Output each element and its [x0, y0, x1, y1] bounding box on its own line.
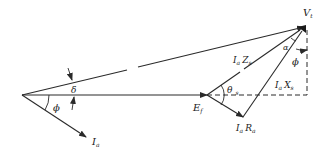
phi-right-arc	[296, 49, 307, 50]
ia-label: Ia	[91, 136, 100, 148]
alpha-arc	[291, 38, 296, 41]
iaxs-label: IaXs	[274, 80, 294, 91]
phi-left-arc	[45, 95, 49, 110]
iaxs-phasor	[243, 31, 302, 117]
alpha-label: α	[283, 43, 289, 52]
phasor-diagram: Vt IaZs IaXs IaRa Ef Ia δ ϕ ϕ α θs	[0, 0, 326, 151]
phi-left-label: ϕ	[53, 102, 60, 113]
delta-pointer-bottom	[72, 97, 74, 110]
theta-label: θs	[227, 85, 239, 96]
iara-label: IaRa	[235, 123, 256, 134]
ef-label: Ef	[192, 102, 204, 115]
iazs-label: IaZs	[232, 55, 252, 66]
vt-phasor	[22, 27, 304, 95]
phi-right-label: ϕ	[292, 56, 299, 67]
delta-label: δ	[71, 85, 76, 95]
iara-phasor	[207, 95, 243, 117]
delta-pointer-top	[68, 68, 72, 80]
vt-label: Vt	[303, 7, 313, 19]
